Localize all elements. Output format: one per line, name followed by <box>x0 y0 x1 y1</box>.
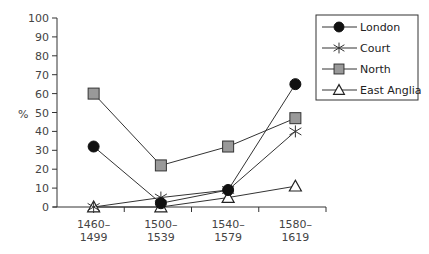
legend-label: London <box>360 21 400 34</box>
y-tick-label: 60 <box>35 88 49 101</box>
y-tick-label: 90 <box>35 31 49 44</box>
y-tick-label: 30 <box>35 144 49 157</box>
y-axis: 0102030405060708090100% <box>18 12 57 214</box>
y-tick-label: 50 <box>35 107 49 120</box>
markers-london <box>88 79 301 209</box>
x-tick-label: 1540–1579 <box>211 218 245 244</box>
line-chart: 0102030405060708090100%1460–14991500–153… <box>0 0 429 254</box>
y-tick-label: 20 <box>35 163 49 176</box>
legend-label: North <box>360 63 391 76</box>
x-tick-label: 1460–1499 <box>77 218 111 244</box>
series-london <box>94 84 296 203</box>
series-court <box>94 131 296 207</box>
x-tick-label: 1580–1619 <box>279 218 313 244</box>
y-tick-label: 0 <box>42 201 49 214</box>
y-tick-label: 70 <box>35 69 49 82</box>
legend-label: East Anglia <box>360 84 422 97</box>
y-tick-label: 40 <box>35 125 49 138</box>
series-north <box>94 94 296 166</box>
legend-label: Court <box>360 42 391 55</box>
legend: LondonCourtNorthEast Anglia <box>316 15 422 100</box>
y-tick-label: 10 <box>35 182 49 195</box>
y-tick-label: 100 <box>28 12 49 25</box>
y-axis-label: % <box>18 108 28 121</box>
x-tick-label: 1500–1539 <box>144 218 178 244</box>
y-tick-label: 80 <box>35 50 49 63</box>
markers-court <box>88 125 302 213</box>
